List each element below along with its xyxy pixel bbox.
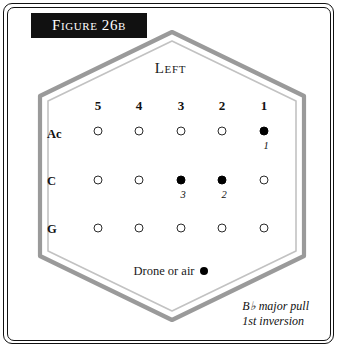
finger-number-ac-1: 1 xyxy=(263,140,268,151)
column-header-5: 5 xyxy=(95,98,102,114)
figure-container: Figure 26b Left 5 4 3 2 1 Ac C G 1 3 2 xyxy=(0,0,341,351)
finger-number-c-2: 2 xyxy=(221,189,226,200)
diagram-content: Left 5 4 3 2 1 Ac C G 1 3 2 Drone xyxy=(0,0,341,351)
hole-g-5[interactable] xyxy=(94,224,103,233)
column-header-2: 2 xyxy=(219,98,226,114)
figure-title-banner: Figure 26b xyxy=(31,13,147,38)
column-header-1: 1 xyxy=(261,98,268,114)
hole-g-2[interactable] xyxy=(218,224,227,233)
row-label-c: C xyxy=(47,174,56,189)
orientation-label: Left xyxy=(0,60,341,77)
drone-legend: Drone or air xyxy=(0,264,341,279)
hole-ac-5[interactable] xyxy=(94,127,103,136)
hole-ac-4[interactable] xyxy=(135,127,144,136)
column-header-3: 3 xyxy=(178,98,185,114)
figure-title-text: Figure 26b xyxy=(52,17,126,34)
hole-c-2[interactable] xyxy=(218,176,227,185)
chord-caption: B♭ major pull 1st inversion xyxy=(242,299,309,330)
hole-ac-2[interactable] xyxy=(218,127,227,136)
hole-ac-3[interactable] xyxy=(177,127,186,136)
hole-g-4[interactable] xyxy=(135,224,144,233)
caption-line-1: B♭ major pull xyxy=(242,299,309,314)
drone-legend-label: Drone or air xyxy=(133,264,194,278)
hole-g-1[interactable] xyxy=(260,224,269,233)
hole-c-4[interactable] xyxy=(135,176,144,185)
caption-line-2: 1st inversion xyxy=(242,314,309,329)
hole-c-1[interactable] xyxy=(260,176,269,185)
row-label-ac: Ac xyxy=(47,127,62,142)
hole-g-3[interactable] xyxy=(177,224,186,233)
hole-ac-1[interactable] xyxy=(260,127,269,136)
drone-filled-dot-icon xyxy=(200,267,208,275)
finger-number-c-3: 3 xyxy=(180,189,185,200)
hole-c-5[interactable] xyxy=(94,176,103,185)
column-header-4: 4 xyxy=(136,98,143,114)
hole-c-3[interactable] xyxy=(177,176,186,185)
row-label-g: G xyxy=(47,222,57,237)
